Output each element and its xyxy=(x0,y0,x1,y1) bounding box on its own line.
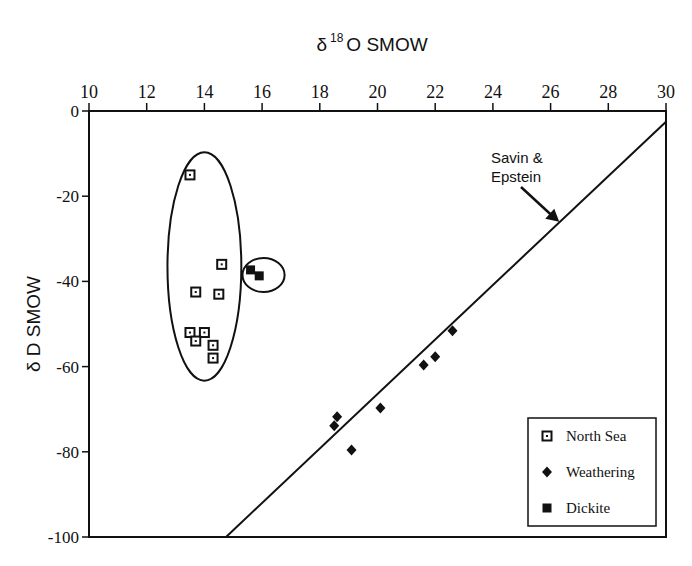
x-tick-label: 24 xyxy=(484,82,502,102)
north-sea-point xyxy=(200,328,209,337)
y-tick-label: -40 xyxy=(56,272,79,291)
x-axis-title: δ18O SMOW xyxy=(316,31,427,55)
legend-dickite-label: Dickite xyxy=(566,500,610,516)
dickite-point xyxy=(246,265,255,274)
north-sea-cluster-ellipse xyxy=(167,152,241,380)
x-tick-label: 18 xyxy=(311,82,329,102)
x-tick-label: 26 xyxy=(542,82,560,102)
legend-weathering-label: Weathering xyxy=(566,464,635,480)
weathering-point xyxy=(419,359,429,370)
x-tick-label: 16 xyxy=(253,82,271,102)
savin-epstein-label: Savin &Epstein xyxy=(491,149,543,185)
y-tick-label: -80 xyxy=(56,443,79,462)
north-sea-point xyxy=(209,341,218,350)
y-axis-title: δ D SMOW xyxy=(23,276,44,372)
weathering-point xyxy=(347,445,357,456)
north-sea-point xyxy=(209,354,218,363)
y-tick-label: 0 xyxy=(71,102,80,121)
chart: δ18O SMOW δ D SMOW 101214161820222426283… xyxy=(0,0,692,566)
x-axis-title-superscript: 18 xyxy=(330,31,344,45)
north-sea-point xyxy=(214,290,223,299)
x-tick-label: 14 xyxy=(195,82,213,102)
x-tick-label: 30 xyxy=(657,82,675,102)
y-tick-label: -100 xyxy=(48,528,79,547)
weathering-point xyxy=(430,351,440,362)
y-tick-label: -60 xyxy=(56,358,79,377)
legend-north-sea-label: North Sea xyxy=(566,428,627,444)
x-tick-label: 10 xyxy=(80,82,98,102)
x-tick-label: 22 xyxy=(426,82,444,102)
savin-epstein-label-line: Savin & xyxy=(491,149,543,166)
dickite-point xyxy=(255,271,264,280)
x-axis-title-main: O SMOW xyxy=(346,34,427,55)
weathering-point xyxy=(329,420,339,431)
x-tick-label: 28 xyxy=(599,82,617,102)
y-tick-label: -20 xyxy=(56,187,79,206)
north-sea-point xyxy=(217,260,226,269)
weathering-point xyxy=(375,402,385,413)
north-sea-point xyxy=(191,337,200,346)
north-sea-point xyxy=(191,288,200,297)
x-tick-label: 12 xyxy=(138,82,156,102)
north-sea-point xyxy=(185,170,194,179)
x-axis-title-delta: δ xyxy=(316,34,327,55)
data-points xyxy=(185,170,457,455)
x-ticks: 1012141618202224262830 xyxy=(80,82,675,111)
legend-dickite-marker xyxy=(543,504,552,513)
weathering-point xyxy=(332,411,342,422)
savin-epstein-label-line: Epstein xyxy=(491,168,541,185)
x-tick-label: 20 xyxy=(369,82,387,102)
y-ticks: 0-20-40-60-80-100 xyxy=(48,102,89,547)
annotation-arrow-shaft xyxy=(521,187,553,217)
legend-north-sea-marker xyxy=(543,432,552,441)
legend: North SeaWeatheringDickite xyxy=(528,418,656,526)
